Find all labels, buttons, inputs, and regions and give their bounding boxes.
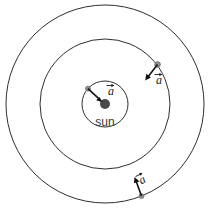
sun-label: sun <box>95 115 114 129</box>
diagram-canvas: sun a a <box>0 0 211 210</box>
inner-orbit-group: a <box>85 84 114 103</box>
inner-acceleration-vector <box>88 89 100 100</box>
orbit-diagram: sun a a <box>0 0 211 210</box>
middle-vector-label: a <box>155 73 163 87</box>
middle-orbit-group: a <box>145 62 162 88</box>
inner-vector-label: a <box>107 84 115 98</box>
